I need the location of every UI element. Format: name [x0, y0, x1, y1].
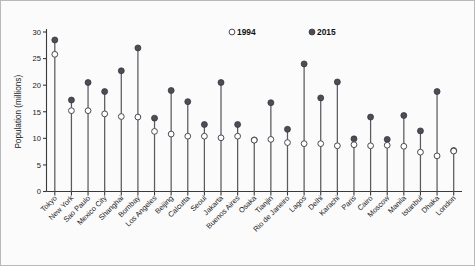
x-axis-label-lagos: Lagos [287, 193, 308, 214]
point-1994-seoul[interactable] [201, 133, 207, 139]
point-2015-istanbul[interactable] [417, 128, 423, 134]
point-1994-beijing[interactable] [168, 131, 174, 137]
point-1994-sao-paulo[interactable] [85, 108, 91, 114]
point-1994-rio-de-janeiro[interactable] [285, 140, 291, 146]
legend-label-2015: 2015 [317, 27, 336, 37]
point-1994-bombay[interactable] [135, 114, 141, 120]
point-2015-tianjin[interactable] [268, 100, 274, 106]
point-2015-mexico-city[interactable] [102, 89, 108, 95]
point-2015-lagos[interactable] [301, 61, 307, 67]
y-tick-label-10: 10 [33, 134, 41, 143]
point-2015-rio-de-janeiro[interactable] [284, 126, 290, 132]
point-2015-dhaka[interactable] [434, 89, 440, 95]
y-tick-label-30: 30 [33, 28, 41, 37]
point-2015-paris[interactable] [351, 136, 357, 142]
point-2015-bombay[interactable] [135, 45, 141, 51]
legend-marker-1994[interactable] [229, 29, 235, 35]
point-1994-dhaka[interactable] [434, 153, 440, 159]
legend-marker-2015[interactable] [309, 29, 315, 35]
point-2015-sao-paulo[interactable] [85, 80, 91, 86]
y-tick-label-5: 5 [37, 161, 41, 170]
point-2015-seoul[interactable] [201, 122, 207, 128]
point-1994-mexico-city[interactable] [102, 111, 108, 117]
point-1994-new-york[interactable] [69, 108, 75, 114]
point-1994-london[interactable] [451, 148, 457, 154]
point-2015-beijing[interactable] [168, 87, 174, 93]
point-2015-karachi[interactable] [334, 79, 340, 85]
y-tick-label-15: 15 [33, 108, 41, 117]
y-tick-label-25: 25 [33, 54, 41, 63]
point-2015-buenos-aires[interactable] [235, 122, 241, 128]
point-2015-los-angeles[interactable] [152, 115, 158, 121]
point-1994-buenos-aires[interactable] [235, 133, 241, 139]
y-tick-label-0: 0 [37, 187, 41, 196]
point-1994-moscow[interactable] [384, 142, 390, 148]
point-1994-istanbul[interactable] [418, 149, 424, 155]
point-2015-shanghai[interactable] [118, 68, 124, 74]
x-axis-label-paris: Paris [340, 193, 358, 211]
point-1994-tianjin[interactable] [268, 136, 274, 142]
point-2015-cairo[interactable] [368, 114, 374, 120]
y-axis-title: Population (millions) [14, 75, 23, 149]
point-1994-shanghai[interactable] [118, 114, 124, 120]
point-2015-delhi[interactable] [318, 95, 324, 101]
point-2015-manila[interactable] [401, 112, 407, 118]
population-dot-chart: 051015202530Population (millions)TokyoNe… [1, 1, 475, 266]
point-1994-lagos[interactable] [301, 141, 307, 147]
y-tick-label-20: 20 [33, 81, 41, 90]
point-1994-calcutta[interactable] [185, 133, 191, 139]
point-1994-osaka[interactable] [251, 137, 257, 143]
point-1994-cairo[interactable] [368, 143, 374, 149]
point-2015-moscow[interactable] [384, 136, 390, 142]
chart-plot-area: 051015202530Population (millions)TokyoNe… [1, 1, 475, 266]
point-1994-tokyo[interactable] [52, 51, 58, 57]
point-1994-manila[interactable] [401, 143, 407, 149]
point-1994-jakarta[interactable] [218, 135, 224, 141]
point-2015-calcutta[interactable] [185, 99, 191, 105]
legend-label-1994: 1994 [237, 27, 256, 37]
point-1994-los-angeles[interactable] [152, 129, 158, 135]
point-1994-karachi[interactable] [334, 143, 340, 149]
point-2015-new-york[interactable] [68, 97, 74, 103]
point-1994-delhi[interactable] [318, 141, 324, 147]
point-2015-tokyo[interactable] [52, 37, 58, 43]
point-2015-jakarta[interactable] [218, 80, 224, 86]
point-1994-paris[interactable] [351, 142, 357, 148]
chart-figure: 051015202530Population (millions)TokyoNe… [0, 0, 475, 266]
